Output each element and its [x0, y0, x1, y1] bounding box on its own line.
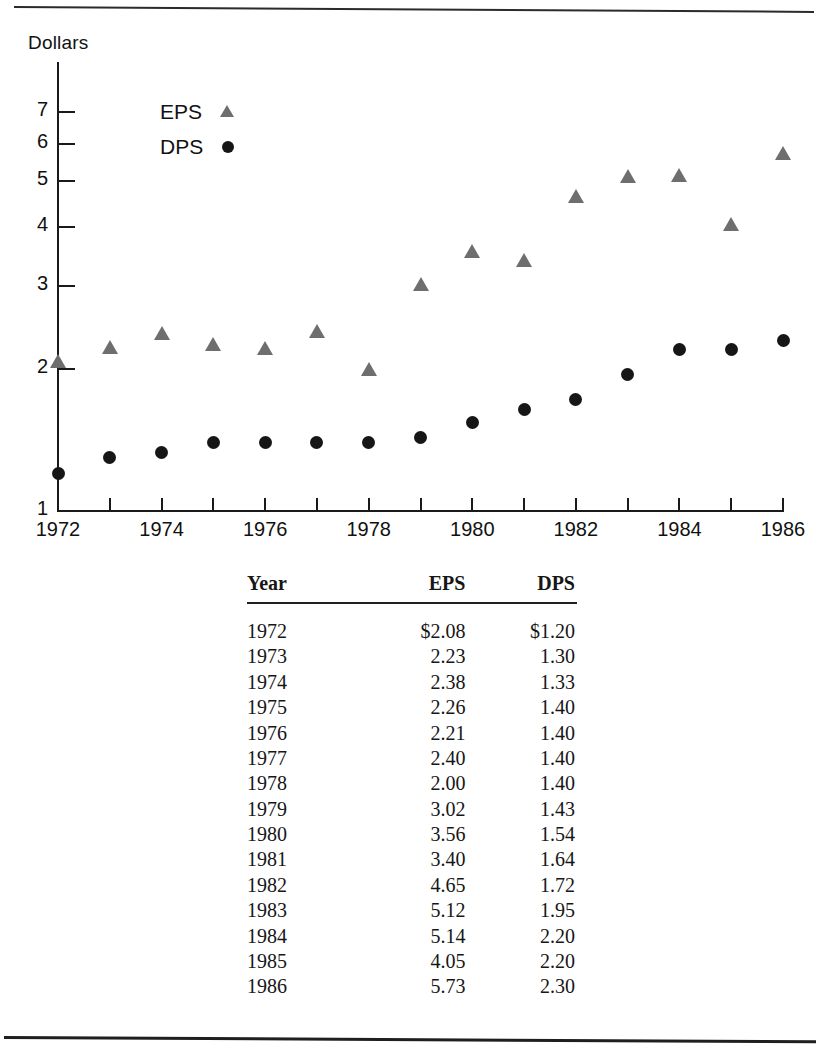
x-axis-tick-label: 1984 — [644, 518, 714, 541]
table-cell-eps: 2.00 — [351, 771, 479, 796]
table-row: 19803.561.54 — [247, 822, 577, 847]
data-point-eps — [205, 337, 221, 351]
table-row: 19865.732.30 — [247, 974, 577, 999]
table-cell-eps: 5.14 — [351, 923, 479, 948]
table-row: 19854.052.20 — [247, 949, 577, 974]
data-point-eps — [568, 189, 584, 203]
table-cell-dps: 1.40 — [479, 771, 577, 796]
table-cell-year: 1979 — [247, 796, 351, 821]
table-cell-eps: 2.26 — [351, 695, 479, 720]
bottom-divider-rule — [4, 1036, 816, 1043]
y-axis-tick-label: 7 — [22, 98, 48, 121]
y-axis-tick — [59, 226, 75, 228]
data-point-dps — [518, 403, 531, 416]
table-cell-year: 1985 — [247, 949, 351, 974]
table-cell-eps: 3.56 — [351, 822, 479, 847]
data-point-dps — [103, 451, 116, 464]
data-point-eps — [671, 168, 687, 182]
y-axis-tick — [59, 368, 75, 370]
legend-entry-dps: DPS — [160, 135, 234, 170]
table-cell-year: 1977 — [247, 746, 351, 771]
x-axis-tick — [57, 498, 59, 512]
table-cell-year: 1982 — [247, 873, 351, 898]
x-axis-tick — [523, 498, 525, 512]
table-row: 19824.651.72 — [247, 873, 577, 898]
table-cell-dps: 2.30 — [479, 974, 577, 999]
y-axis-line — [57, 62, 59, 512]
data-point-eps — [154, 326, 170, 340]
x-axis-tick — [420, 498, 422, 512]
x-axis-tick — [471, 498, 473, 512]
table-cell-year: 1974 — [247, 670, 351, 695]
table-cell-dps: 1.95 — [479, 898, 577, 923]
data-point-dps — [414, 431, 427, 444]
x-axis-tick-label: 1972 — [23, 518, 93, 541]
table-cell-dps: 1.33 — [479, 670, 577, 695]
chart-panel: Dollars 7654321 197219741976197819801982… — [0, 24, 823, 544]
y-axis-tick — [59, 111, 75, 113]
table-cell-eps: 4.65 — [351, 873, 479, 898]
table-row: 19752.261.40 — [247, 695, 577, 720]
data-point-dps — [777, 334, 790, 347]
x-axis-tick — [575, 498, 577, 512]
column-header-dps: DPS — [479, 572, 577, 603]
legend-entry-eps: EPS — [160, 100, 234, 135]
data-point-dps — [725, 343, 738, 356]
data-point-eps — [257, 341, 273, 355]
data-point-dps — [466, 416, 479, 429]
data-point-dps — [673, 343, 686, 356]
y-axis-tick-label: 1 — [22, 497, 48, 520]
table-cell-dps: 1.30 — [479, 644, 577, 669]
table-row: 19793.021.43 — [247, 796, 577, 821]
x-axis-tick — [730, 498, 732, 512]
table-row: 19845.142.20 — [247, 923, 577, 948]
table-cell-eps: 5.12 — [351, 898, 479, 923]
data-point-dps — [621, 368, 634, 381]
y-axis-tick — [59, 510, 75, 512]
table-cell-dps: $1.20 — [479, 603, 577, 644]
data-point-eps — [413, 277, 429, 291]
y-axis-tick-label: 4 — [22, 213, 48, 236]
table-cell-year: 1978 — [247, 771, 351, 796]
triangle-marker-icon — [220, 105, 234, 117]
data-point-dps — [362, 436, 375, 449]
column-header-year: Year — [247, 572, 351, 603]
legend-label-eps: EPS — [160, 100, 202, 124]
table-cell-dps: 2.20 — [479, 923, 577, 948]
data-point-eps — [516, 253, 532, 267]
data-point-dps — [259, 436, 272, 449]
x-axis-tick-label: 1982 — [541, 518, 611, 541]
table-cell-eps: 2.23 — [351, 644, 479, 669]
table-cell-year: 1973 — [247, 644, 351, 669]
y-axis-tick — [59, 285, 75, 287]
data-point-eps — [361, 362, 377, 376]
data-point-eps — [723, 217, 739, 231]
x-axis-tick-label: 1980 — [437, 518, 507, 541]
x-axis-tick — [678, 498, 680, 512]
x-axis-tick — [264, 498, 266, 512]
table-cell-year: 1986 — [247, 974, 351, 999]
table-cell-eps: 3.02 — [351, 796, 479, 821]
table-cell-eps: 2.40 — [351, 746, 479, 771]
plot-area: 7654321 19721974197619781980198219841986 — [0, 24, 823, 544]
table-cell-eps: 4.05 — [351, 949, 479, 974]
table-cell-dps: 1.54 — [479, 822, 577, 847]
table-cell-dps: 1.40 — [479, 746, 577, 771]
y-axis-tick-label: 5 — [22, 167, 48, 190]
x-axis-tick — [782, 498, 784, 512]
circle-marker-icon — [222, 141, 234, 153]
table-cell-eps: 2.38 — [351, 670, 479, 695]
y-axis-tick-label: 2 — [22, 355, 48, 378]
table-row: 19813.401.64 — [247, 847, 577, 872]
data-point-eps — [309, 324, 325, 338]
table-row: 19782.001.40 — [247, 771, 577, 796]
table-cell-eps: $2.08 — [351, 603, 479, 644]
table-cell-dps: 1.64 — [479, 847, 577, 872]
x-axis-tick — [109, 498, 111, 512]
y-axis-tick — [59, 180, 75, 182]
x-axis-tick — [627, 498, 629, 512]
table-cell-dps: 1.43 — [479, 796, 577, 821]
table-cell-year: 1976 — [247, 720, 351, 745]
y-axis-tick-label: 3 — [22, 272, 48, 295]
table-cell-dps: 1.72 — [479, 873, 577, 898]
